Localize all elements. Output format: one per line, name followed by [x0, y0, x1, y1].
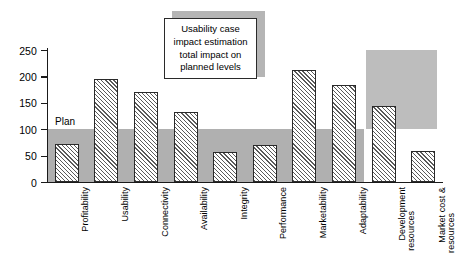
y-tick-label-250: 250 — [19, 45, 37, 56]
x-label-line1: Profitability — [80, 187, 90, 232]
bar-profitability — [55, 144, 79, 182]
x-label-line1: Adaptability — [357, 187, 367, 234]
x-label-profitability: Profitability — [71, 187, 100, 242]
x-label-market-cost-and-resources: Market cost &resources — [428, 187, 455, 253]
x-label-usability: Usability — [111, 187, 140, 232]
y-tick-label-150: 150 — [19, 98, 37, 109]
y-tick-100: 100 — [41, 129, 47, 130]
bar-usability — [94, 79, 118, 182]
y-tick-200: 200 — [41, 76, 47, 77]
bar-chart: 250 200 150 100 50 0 Plan Profitability … — [0, 0, 455, 258]
x-label-line1: Performance — [278, 187, 288, 239]
bar-connectivity — [134, 92, 158, 182]
x-label-line1: Market cost & — [436, 187, 446, 243]
bar-marketability — [292, 70, 316, 182]
x-label-adaptability: Adaptability — [349, 187, 378, 244]
x-label-line1: Usability — [119, 187, 129, 221]
callout-line-1: Usability case — [181, 23, 240, 36]
x-label-line1: Marketability — [317, 187, 327, 238]
x-label-marketability: Marketability — [309, 187, 338, 248]
y-tick-0: 0 — [41, 182, 47, 183]
y-tick-label-100: 100 — [19, 125, 37, 136]
x-label-line1: Availability — [199, 187, 209, 230]
bar-adaptability — [332, 85, 356, 182]
y-tick-250: 250 — [41, 50, 47, 51]
y-tick-150: 150 — [41, 103, 47, 104]
bar-development-resources — [372, 106, 396, 182]
x-label-line1: Connectivity — [159, 187, 169, 237]
x-label-integrity: Integrity — [230, 187, 259, 230]
bar-integrity — [213, 152, 237, 182]
callout-line-4: planned levels — [180, 61, 241, 74]
callout-box: Usability case impact estimation total i… — [164, 18, 257, 79]
x-label-line1: Integrity — [238, 187, 248, 219]
x-axis-line — [47, 182, 443, 183]
x-label-availability: Availability — [190, 187, 219, 240]
x-label-line2: resources — [447, 187, 455, 253]
y-axis-line — [47, 48, 48, 183]
y-tick-label-200: 200 — [19, 72, 37, 83]
y-tick-label-0: 0 — [31, 177, 37, 188]
y-tick-50: 50 — [41, 156, 47, 157]
bar-availability — [174, 112, 198, 182]
callout-line-3: total impact on — [180, 49, 242, 62]
plan-reference-label: Plan — [55, 117, 75, 127]
x-label-connectivity: Connectivity — [151, 187, 180, 247]
y-tick-label-50: 50 — [25, 151, 37, 162]
x-label-line1: Development — [397, 187, 407, 241]
bar-performance — [253, 145, 277, 182]
bar-market-cost-and-resources — [411, 151, 435, 182]
callout-line-2: impact estimation — [174, 36, 248, 49]
x-label-performance: Performance — [269, 187, 298, 249]
x-label-line2: resources — [407, 187, 417, 251]
